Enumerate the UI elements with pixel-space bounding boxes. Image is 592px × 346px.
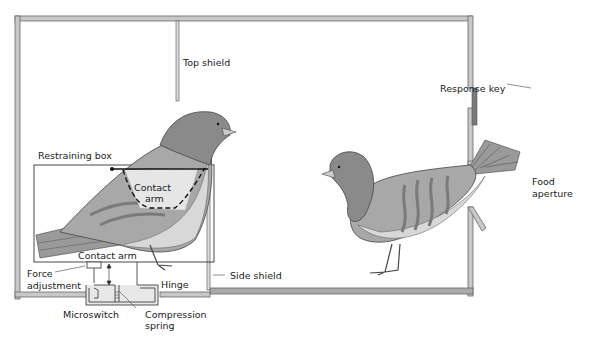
free-pigeon (322, 140, 520, 275)
label-contact-arm: Contact arm (78, 250, 137, 261)
label-contact-arm-inner-1: Contact (134, 182, 171, 193)
label-restraining-box: Restraining box (38, 150, 112, 161)
top-shield (176, 21, 179, 101)
label-compression-spring-2: spring (145, 320, 175, 331)
label-force-adjustment-1: Force (27, 268, 53, 279)
label-hinge: Hinge (161, 279, 189, 290)
label-response-key: Response key (440, 83, 505, 94)
label-food-aperture-2: aperture (532, 188, 573, 199)
label-side-shield: Side shield (230, 270, 282, 281)
label-top-shield: Top shield (183, 57, 230, 68)
chamber-diagram (0, 0, 592, 346)
label-force-adjustment-2: adjustment (27, 280, 81, 291)
label-microswitch: Microswitch (63, 309, 119, 320)
label-food-aperture-1: Food (532, 176, 555, 187)
label-compression-spring-1: Compression (145, 309, 207, 320)
switch-mechanism (86, 262, 158, 308)
label-contact-arm-inner-2: arm (145, 193, 164, 204)
